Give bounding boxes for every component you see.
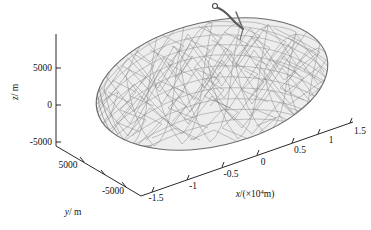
y-tick-label: -5000 [102,186,124,196]
z-tick-label: -5000 [30,137,52,147]
z-tick-label: 0 [47,100,52,110]
x-tick-label: -0.5 [223,169,238,179]
plot-canvas: 5000 0 -5000 z/ m 5000 -5000 y/ m [0,0,371,230]
x-tick-label: -1 [189,181,197,191]
svg-text:z/ m: z/ m [10,83,20,101]
x-tick-label: 0.5 [294,145,306,155]
x-tick-label: 1.5 [354,126,366,136]
x-tick-label: 1 [329,135,334,145]
z-tick-label: 5000 [33,63,52,73]
x-axis-title: x/(×104m) [235,188,275,201]
y-axis-title-tail: / m [69,207,82,217]
z-axis-title-tail: / m [10,83,20,96]
x-tick-label: 0 [261,157,266,167]
z-axis-title: z/ m [10,83,20,101]
x-tick-label: -1.5 [148,193,163,203]
x-axis-title-tail: m) [264,189,275,200]
trajectory-start-marker [213,4,218,9]
y-tick-label: 5000 [59,160,78,170]
y-axis-title: y/ m [64,207,82,217]
x-axis-title-slash: /(×10 [240,189,261,200]
asteroid-3d-plot: 5000 0 -5000 z/ m 5000 -5000 y/ m [0,0,371,230]
